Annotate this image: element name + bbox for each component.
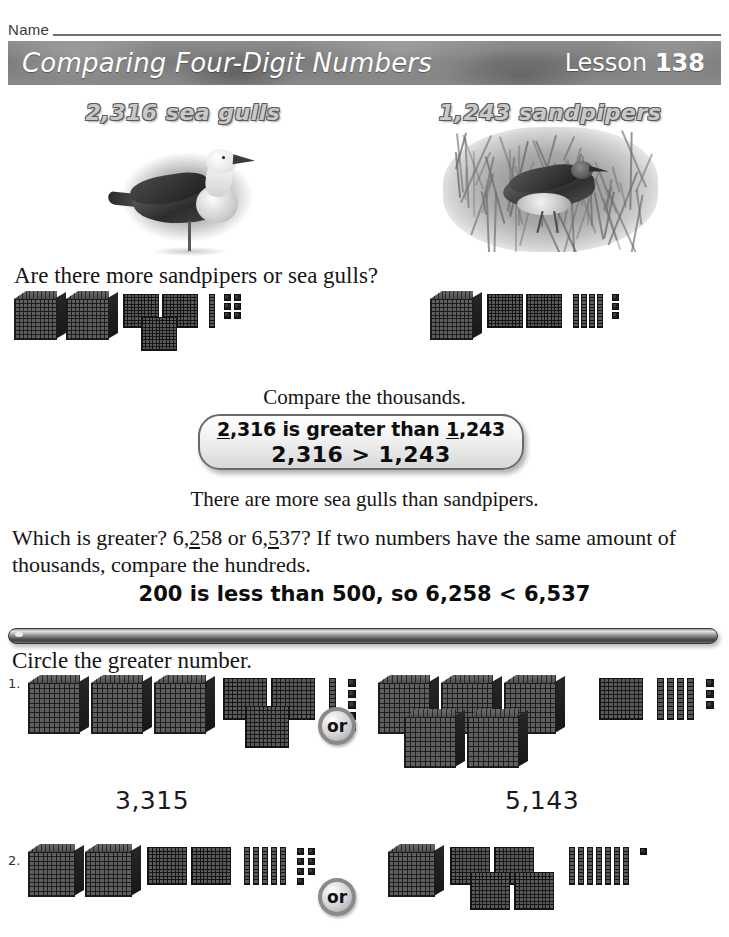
- one-unit: [612, 294, 619, 301]
- hundred-flat: [141, 317, 177, 351]
- comparison-callout: 2,316 is greater than 1,243 2,316 > 1,24…: [198, 414, 524, 470]
- ten-rod: [253, 847, 259, 885]
- lesson-word: Lesson: [565, 49, 648, 77]
- ten-rod: [587, 847, 593, 885]
- hundred-flat: [245, 706, 289, 748]
- hundred-flat: [191, 847, 231, 885]
- gull-beak: [233, 154, 256, 166]
- gull-leg: [188, 221, 191, 251]
- exercise-1-right-value[interactable]: 5,143: [505, 786, 579, 815]
- lesson-conclusion: There are more sea gulls than sandpipers…: [0, 487, 729, 512]
- lesson-number: 138: [655, 49, 705, 77]
- one-unit: [308, 868, 315, 875]
- one-unit: [308, 858, 315, 865]
- callout-line-words: 2,316 is greater than 1,243: [217, 418, 505, 440]
- explain-part-3: 37? If two numbers have the same: [279, 525, 581, 550]
- one-unit: [308, 848, 315, 855]
- one-unit: [348, 690, 356, 698]
- thousand-cube: [388, 845, 435, 897]
- ten-rod: [578, 847, 584, 885]
- one-unit: [706, 701, 714, 709]
- sea-gull-photo: [78, 127, 288, 262]
- gull-head: [206, 149, 236, 173]
- cube-face: [28, 683, 80, 734]
- ten-rod: [573, 294, 579, 328]
- one-unit: [297, 868, 304, 875]
- name-label: Name: [8, 22, 49, 38]
- ten-rod: [597, 294, 603, 328]
- thousand-cube: [404, 710, 456, 768]
- one-unit: [224, 303, 231, 310]
- thousand-cube: [85, 845, 132, 897]
- ten-rod: [569, 847, 575, 885]
- hundred-flat: [599, 678, 643, 720]
- one-unit: [234, 312, 241, 319]
- thousand-cube: [28, 845, 75, 897]
- thousand-cube: [28, 676, 80, 734]
- cube-face: [467, 717, 519, 768]
- callout-underline-1: 1: [446, 418, 459, 440]
- cube-face: [430, 299, 473, 340]
- compare-prompt: Compare the thousands.: [0, 385, 729, 410]
- thousand-cube: [66, 292, 109, 340]
- one-unit: [234, 294, 241, 301]
- ten-rod: [596, 847, 602, 885]
- section-divider: [8, 628, 718, 644]
- or-badge-1: or: [318, 707, 356, 745]
- callout-text-b: ,243: [459, 418, 505, 440]
- ten-rod: [687, 678, 694, 720]
- page-title: Comparing Four-Digit Numbers: [22, 48, 432, 78]
- sea-gull-figure: 2,316 sea gulls: [58, 100, 308, 262]
- one-unit: [706, 679, 714, 687]
- one-unit: [612, 303, 619, 310]
- hundred-flat: [147, 847, 187, 885]
- one-unit: [224, 294, 231, 301]
- name-write-line[interactable]: [53, 34, 721, 36]
- explain-underline-2: 2: [189, 525, 200, 550]
- thousand-cube: [14, 292, 57, 340]
- cube-face: [404, 717, 456, 768]
- one-unit: [297, 848, 304, 855]
- ten-rod: [262, 847, 268, 885]
- ten-rod: [271, 847, 277, 885]
- sandpiper-figure: 1,243 sandpipers: [425, 100, 675, 252]
- thousand-cube: [91, 676, 143, 734]
- cube-face: [14, 299, 57, 340]
- exercise-number-1: 1.: [8, 676, 20, 691]
- hundred-flat: [514, 872, 554, 910]
- ten-rod: [623, 847, 629, 885]
- sea-gull-caption: 2,316 sea gulls: [58, 100, 308, 125]
- one-unit: [348, 701, 356, 709]
- explanation-paragraph: Which is greater? 6,258 or 6,537? If two…: [12, 524, 717, 578]
- one-unit: [612, 312, 619, 319]
- worksheet-page: Name Comparing Four-Digit Numbers Lesson…: [0, 0, 729, 937]
- exercise-1-left-value[interactable]: 3,315: [115, 786, 189, 815]
- one-unit: [640, 848, 647, 855]
- explain-underline-5: 5: [268, 525, 279, 550]
- one-unit: [297, 878, 304, 885]
- sandpiper-caption: 1,243 sandpipers: [425, 100, 675, 125]
- cube-face: [388, 852, 435, 897]
- cube-face: [85, 852, 132, 897]
- ten-rod: [605, 847, 611, 885]
- cube-face: [154, 683, 206, 734]
- one-unit: [706, 690, 714, 698]
- one-unit: [348, 679, 356, 687]
- one-unit: [297, 858, 304, 865]
- ten-rod: [667, 678, 674, 720]
- callout-underline-2: 2: [217, 418, 230, 440]
- bold-rule-statement: 200 is less than 500, so 6,258 < 6,537: [0, 582, 729, 606]
- name-row: Name: [8, 14, 721, 38]
- ten-rod: [677, 678, 684, 720]
- lesson-indicator: Lesson 138: [565, 49, 705, 77]
- explain-part-2: 58 or 6,: [200, 525, 268, 550]
- or-badge-2: or: [318, 878, 356, 916]
- callout-text-a: ,316 is greater than: [230, 418, 446, 440]
- cube-face: [66, 299, 109, 340]
- lesson-question: Are there more sandpipers or sea gulls?: [14, 263, 378, 289]
- ten-rod: [657, 678, 664, 720]
- hundred-flat: [470, 872, 510, 910]
- one-unit: [224, 312, 231, 319]
- callout-line-inequality: 2,316 > 1,243: [271, 442, 450, 467]
- hundred-flat: [526, 294, 562, 328]
